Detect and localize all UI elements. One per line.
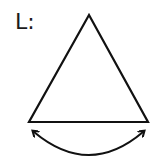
triangle-shape <box>29 15 148 122</box>
diagram-canvas <box>0 0 160 163</box>
curved-double-arrow-icon <box>34 132 143 155</box>
